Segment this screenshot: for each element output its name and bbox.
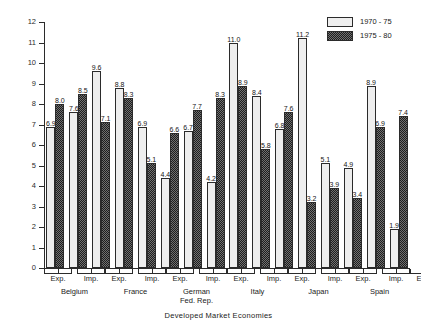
bar: 8.5 bbox=[78, 94, 87, 268]
bar-value-label: 6.9 bbox=[375, 120, 385, 127]
bar-value-label: 3.4 bbox=[353, 191, 363, 198]
y-axis-tick-label: 2 bbox=[32, 223, 36, 231]
subgroup-label: Imp. bbox=[382, 275, 410, 284]
x-axis-group: Exp.Imp.Italy bbox=[227, 269, 288, 317]
bar: 4.4 bbox=[161, 178, 170, 268]
subgroup-label: Exp. bbox=[227, 275, 255, 284]
y-axis-tick-label: 3 bbox=[32, 203, 36, 211]
bar-subgroup: 9.67.1 bbox=[92, 22, 110, 268]
bar-subgroup: 11.08.9 bbox=[229, 22, 247, 268]
bar-value-label: 5.1 bbox=[321, 156, 331, 163]
category-label: German Fed. Rep. bbox=[180, 287, 213, 306]
x-axis-title-text: Developed Market Economies bbox=[149, 311, 273, 320]
bar-subgroup: 4.46.6 bbox=[161, 22, 179, 268]
x-axis-group-labels: Exp.Imp.BelgiumExp.Imp.FranceExp.Imp.Ger… bbox=[44, 269, 410, 317]
bar: 9.6 bbox=[92, 71, 101, 268]
y-axis-tick-label: 0 bbox=[32, 264, 36, 272]
bar-group: 6.87.611.23.2 bbox=[273, 22, 319, 268]
bar: 6.7 bbox=[184, 131, 193, 268]
bar: 1.9 bbox=[390, 229, 399, 268]
bar: 7.7 bbox=[193, 110, 202, 268]
bar-subgroup: 5.13.9 bbox=[321, 22, 339, 268]
subgroup-label: Exp. bbox=[44, 275, 72, 284]
subgroup-label: Exp. bbox=[166, 275, 194, 284]
bar: 8.0 bbox=[55, 104, 64, 268]
legend-item: 1970 - 75 bbox=[327, 17, 392, 27]
bar-group: 5.13.94.93.4 bbox=[319, 22, 365, 268]
legend-swatch bbox=[327, 31, 353, 41]
bar-chart: 0123456789101112 6.98.07.68.59.67.18.88.… bbox=[0, 0, 421, 333]
bar-value-label: 8.3 bbox=[124, 91, 134, 98]
bar: 3.2 bbox=[307, 202, 316, 268]
bar-subgroup: 7.68.5 bbox=[69, 22, 87, 268]
bar-group: 6.95.14.46.6 bbox=[136, 22, 182, 268]
bar-value-label: 11.2 bbox=[296, 31, 309, 38]
plot-area: 6.98.07.68.59.67.18.88.36.95.14.46.66.77… bbox=[44, 22, 410, 268]
subgroup-label: Imp. bbox=[199, 275, 227, 284]
bar-subgroup: 1.97.4 bbox=[390, 22, 408, 268]
legend-item: 1975 - 80 bbox=[327, 31, 392, 41]
bar-value-label: 4.4 bbox=[161, 171, 171, 178]
bar-subgroup: 6.95.1 bbox=[138, 22, 156, 268]
subgroup-bracket bbox=[410, 269, 421, 274]
bar: 8.8 bbox=[115, 88, 124, 268]
bar-subgroup: 4.28.3 bbox=[207, 22, 225, 268]
subgroup-bracket bbox=[321, 269, 349, 274]
bar-value-label: 8.8 bbox=[115, 81, 125, 88]
bar: 8.3 bbox=[216, 98, 225, 268]
bar-groups: 6.98.07.68.59.67.18.88.36.95.14.46.66.77… bbox=[44, 22, 410, 268]
bar-subgroup: 11.23.2 bbox=[298, 22, 316, 268]
bar-value-label: 9.6 bbox=[92, 64, 102, 71]
legend: 1970 - 751975 - 80 bbox=[327, 17, 392, 45]
bar-subgroup: 8.96.9 bbox=[367, 22, 385, 268]
y-axis-tick-label: 1 bbox=[32, 244, 36, 252]
bar: 8.4 bbox=[252, 96, 261, 268]
bar-value-label: 11.0 bbox=[227, 36, 240, 43]
bar-value-label: 1.9 bbox=[389, 222, 399, 229]
bar-value-label: 8.9 bbox=[366, 79, 376, 86]
category-label: Belgium bbox=[61, 287, 88, 296]
subgroup-label: Imp. bbox=[260, 275, 288, 284]
bar: 7.6 bbox=[284, 112, 293, 268]
subgroup-bracket bbox=[260, 269, 288, 274]
bar: 3.4 bbox=[353, 198, 362, 268]
bar-value-label: 6.9 bbox=[46, 120, 56, 127]
bar: 11.0 bbox=[229, 43, 238, 269]
x-axis-group: Exp.Imp.Spain bbox=[349, 269, 410, 317]
bar-subgroup: 6.98.0 bbox=[46, 22, 64, 268]
bar: 8.3 bbox=[124, 98, 133, 268]
bar: 7.1 bbox=[101, 122, 110, 268]
bar: 7.4 bbox=[399, 116, 408, 268]
bar-subgroup: 8.45.8 bbox=[252, 22, 270, 268]
bar: 3.9 bbox=[330, 188, 339, 268]
bar-value-label: 3.2 bbox=[307, 195, 317, 202]
bar-value-label: 7.1 bbox=[101, 115, 111, 122]
subgroup-label: Exp. bbox=[105, 275, 133, 284]
bar-value-label: 3.9 bbox=[330, 181, 340, 188]
bar-value-label: 5.1 bbox=[147, 156, 157, 163]
legend-label: 1970 - 75 bbox=[360, 18, 392, 26]
bar-subgroup: 4.93.4 bbox=[344, 22, 362, 268]
bar: 5.1 bbox=[321, 163, 330, 268]
bar-group: 6.98.07.68.5 bbox=[44, 22, 90, 268]
bar-value-label: 4.9 bbox=[344, 161, 354, 168]
bar-group: 11.08.98.45.8 bbox=[227, 22, 273, 268]
subgroup-label: Imp. bbox=[77, 275, 105, 284]
subgroup-bracket bbox=[227, 269, 255, 274]
bar-value-label: 6.6 bbox=[170, 126, 180, 133]
bar: 6.8 bbox=[275, 129, 284, 268]
bar: 5.8 bbox=[261, 149, 270, 268]
category-label: Spain bbox=[370, 287, 389, 296]
bar: 6.6 bbox=[170, 133, 179, 268]
legend-label: 1975 - 80 bbox=[360, 32, 392, 40]
bar-value-label: 6.8 bbox=[275, 122, 285, 129]
y-axis-tick-label: 4 bbox=[32, 182, 36, 190]
y-axis-tick-label: 9 bbox=[32, 80, 36, 88]
subgroup-bracket bbox=[349, 269, 377, 274]
x-axis-group: Exp.Imp.Japan bbox=[288, 269, 349, 317]
y-axis-tick-label: 12 bbox=[28, 18, 36, 26]
category-label: Japan bbox=[308, 287, 328, 296]
category-label: Italy bbox=[251, 287, 265, 296]
y-axis-tick-label: 5 bbox=[32, 162, 36, 170]
bar-value-label: 8.0 bbox=[55, 97, 65, 104]
